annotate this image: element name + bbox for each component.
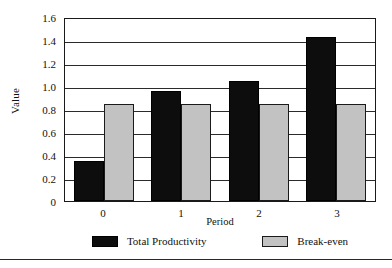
y-axis-tick-label: 0.2 <box>42 173 56 185</box>
legend-label: Break-even <box>297 235 348 247</box>
legend-swatch <box>262 236 288 247</box>
bar-groups <box>65 19 375 201</box>
y-axis-tick-label: 0.4 <box>42 150 56 162</box>
y-axis-tick-label: 1.0 <box>42 81 56 93</box>
y-axis-tick-labels: 00.20.40.60.81.01.21.41.6 <box>24 18 60 202</box>
bar <box>229 81 259 201</box>
bar <box>151 91 181 201</box>
legend-entry[interactable]: Break-even <box>262 235 348 247</box>
footer-divider <box>0 259 392 260</box>
bar <box>259 104 289 201</box>
y-axis-tick-label: 0.8 <box>42 104 56 116</box>
x-axis-title: Period <box>64 216 376 227</box>
y-axis-tick-label: 0 <box>51 196 57 208</box>
y-axis-title-text: Value <box>9 88 21 114</box>
y-axis-tick-label: 1.2 <box>42 58 56 70</box>
bar-group <box>298 19 376 201</box>
plot-area <box>64 18 376 202</box>
y-axis-tick-label: 0.6 <box>42 127 56 139</box>
chart-figure: Value 00.20.40.60.81.01.21.41.6 0123 Per… <box>0 0 392 268</box>
bar-group <box>143 19 221 201</box>
bar <box>306 37 336 201</box>
bar-group <box>65 19 143 201</box>
y-axis-tick-label: 1.4 <box>42 35 56 47</box>
bar <box>104 104 134 201</box>
legend-label: Total Productivity <box>127 235 207 247</box>
bar <box>181 104 211 201</box>
legend-entry[interactable]: Total Productivity <box>92 235 207 247</box>
bar-group <box>220 19 298 201</box>
y-axis-tick-label: 1.6 <box>42 12 56 24</box>
bar <box>336 104 366 201</box>
legend-swatch <box>92 236 118 247</box>
y-axis-title: Value <box>4 0 26 202</box>
bar <box>74 161 104 201</box>
chart-legend: Total ProductivityBreak-even <box>64 231 376 251</box>
